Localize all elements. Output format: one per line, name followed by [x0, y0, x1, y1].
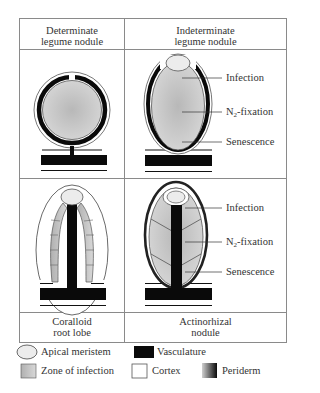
legend-cortex: Cortex	[152, 365, 181, 377]
title-actinorhizal-line1: Actinorhizal	[125, 316, 286, 327]
legend-periderm: Periderm	[222, 365, 261, 377]
title-coralloid-line2: root lobe	[20, 327, 124, 338]
legend-vasculature: Vasculature	[157, 346, 206, 358]
label-infection-actinorhizal: Infection	[226, 202, 264, 213]
title-coralloid: Coralloid root lobe	[20, 316, 124, 338]
actinorhizal-nodule-drawing	[145, 182, 222, 306]
title-determinate-line2: legume nodule	[20, 36, 124, 47]
n2-prefix: N	[226, 106, 234, 117]
n2-prefix: N	[226, 236, 234, 247]
label-senescence-indeterminate: Senescence	[226, 136, 274, 147]
indeterminate-nodule-drawing	[144, 54, 222, 172]
title-indeterminate-line2: legume nodule	[125, 36, 286, 47]
n2-suffix: -fixation	[237, 236, 273, 247]
title-determinate-line1: Determinate	[20, 25, 124, 36]
label-n2-fixation-actinorhizal: N2-fixation	[226, 236, 273, 251]
title-determinate: Determinate legume nodule	[20, 25, 124, 47]
title-coralloid-line1: Coralloid	[20, 316, 124, 327]
n2-suffix: -fixation	[237, 106, 273, 117]
label-n2-fixation-indeterminate: N2-fixation	[226, 106, 273, 121]
title-actinorhizal-line2: nodule	[125, 327, 286, 338]
coralloid-root-drawing	[36, 185, 108, 315]
label-infection-indeterminate: Infection	[226, 72, 264, 83]
title-actinorhizal: Actinorhizal nodule	[125, 316, 286, 338]
legend-zone-of-infection: Zone of infection	[41, 365, 114, 377]
determinate-nodule-drawing	[34, 72, 110, 171]
title-indeterminate-line1: Indeterminate	[125, 25, 286, 36]
legend-apical-meristem: Apical meristem	[41, 346, 111, 358]
title-indeterminate: Indeterminate legume nodule	[125, 25, 286, 47]
label-senescence-actinorhizal: Senescence	[226, 266, 274, 277]
